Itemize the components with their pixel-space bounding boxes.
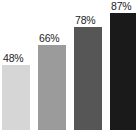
bar-group: 78% (74, 27, 102, 130)
bar-column: 48% (2, 65, 30, 130)
bar-group: 87% (110, 13, 136, 130)
bar-value-label: 66% (39, 32, 59, 44)
bar-column: 66% (38, 45, 66, 130)
bar-rect (38, 45, 66, 130)
bar-group: 66% (38, 45, 66, 130)
bar-value-label: 48% (3, 52, 23, 64)
bar-rect (2, 65, 30, 130)
bar-value-label: 87% (111, 0, 131, 12)
bar-column: 87% (110, 13, 136, 130)
bar-rect (74, 27, 102, 130)
bar-column: 78% (74, 27, 102, 130)
bar-group: 48% (2, 65, 30, 130)
bar-value-label: 78% (75, 14, 95, 26)
bar-rect (110, 13, 136, 130)
bar-chart: 48% 66% 78% 87% (0, 0, 136, 139)
